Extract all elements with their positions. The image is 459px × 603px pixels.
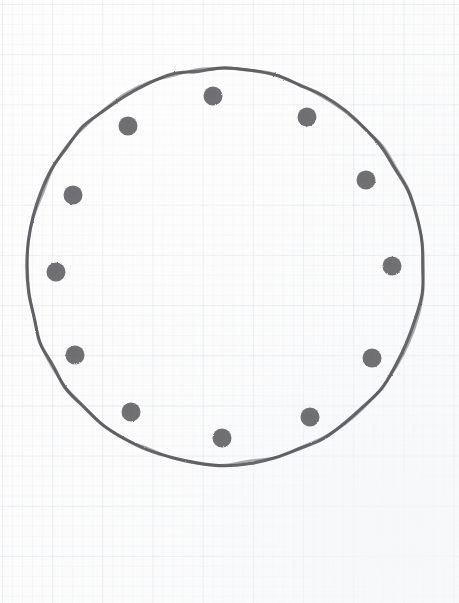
dot-highlight	[67, 189, 77, 199]
dot-1-oclock	[298, 108, 317, 127]
dot-highlight	[216, 432, 226, 442]
dot-highlight	[366, 352, 376, 362]
circle-outline-layer	[27, 68, 423, 466]
dot-2-oclock	[357, 171, 376, 190]
dot-11-oclock	[119, 117, 138, 136]
dots-layer	[47, 87, 402, 448]
dot-highlight	[122, 120, 132, 130]
dot-highlight	[301, 111, 311, 121]
dot-10-oclock	[64, 186, 83, 205]
dot-highlight	[386, 260, 396, 270]
dot-5-oclock	[301, 408, 320, 427]
sketch-canvas	[0, 0, 459, 603]
dot-9-oclock	[47, 263, 66, 282]
dot-highlight	[50, 266, 60, 276]
dot-highlight	[304, 411, 314, 421]
dot-6-oclock	[213, 429, 232, 448]
sketch-drawing	[0, 0, 459, 603]
dot-highlight	[69, 349, 79, 359]
dot-highlight	[207, 90, 217, 100]
dot-8-oclock	[66, 346, 85, 365]
dot-7-oclock	[122, 403, 141, 422]
dot-12-oclock	[204, 87, 223, 106]
dot-highlight	[360, 174, 370, 184]
dot-highlight	[125, 406, 135, 416]
dot-4-oclock	[363, 349, 382, 368]
dot-3-oclock	[383, 257, 402, 276]
